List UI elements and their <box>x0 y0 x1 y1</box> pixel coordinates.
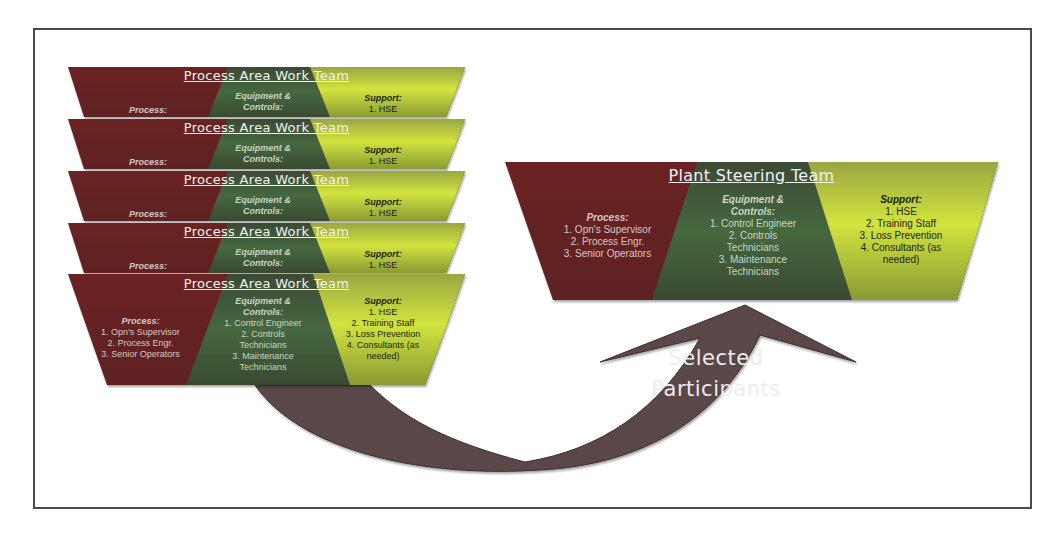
process-column: Process: <box>108 157 188 168</box>
equipment-column: Equipment & Controls: <box>218 247 308 269</box>
equipment-column: Equipment & Controls: 1. Control Enginee… <box>213 296 313 373</box>
support-column: Support:1. HSE <box>343 145 423 167</box>
card-title: Process Area Work Team <box>68 68 465 83</box>
card-title: Process Area Work Team <box>68 276 465 291</box>
card-title: Process Area Work Team <box>68 120 465 135</box>
arrow-label: Selected Participants <box>636 343 796 405</box>
process-column: Process: <box>108 105 188 116</box>
support-column: Support:1. HSE <box>343 249 423 271</box>
process-column: Process: <box>108 209 188 220</box>
equipment-column: Equipment & Controls: 1. Control Enginee… <box>697 194 809 278</box>
work-team-card-2-text: Process Area Work Team Process: Equipmen… <box>68 119 465 169</box>
card-title: Plant Steering Team <box>505 166 998 185</box>
work-team-card-1-text: Process Area Work Team Process: Equipmen… <box>68 67 465 117</box>
card-title: Process Area Work Team <box>68 224 465 239</box>
process-column: Process: <box>108 261 188 272</box>
work-team-card-3-text: Process Area Work Team Process: Equipmen… <box>68 171 465 221</box>
card-title: Process Area Work Team <box>68 172 465 187</box>
process-column: Process: 1. Opn's Supervisor 2. Process … <box>545 212 670 260</box>
equipment-column: Equipment & Controls: <box>218 195 308 217</box>
support-column: Support:1. HSE <box>343 93 423 115</box>
work-team-card-5-text: Process Area Work Team Process: 1. Opn's… <box>68 274 465 385</box>
equipment-column: Equipment & Controls: <box>218 91 308 113</box>
steering-team-card-text: Plant Steering Team Process: 1. Opn's Su… <box>505 162 998 300</box>
support-column: Support: 1. HSE 2. Training Staff 3. Los… <box>333 296 433 362</box>
support-column: Support:1. HSE <box>343 197 423 219</box>
equipment-column: Equipment & Controls: <box>218 143 308 165</box>
support-column: Support: 1. HSE 2. Training Staff 3. Los… <box>845 194 957 266</box>
work-team-card-4-text: Process Area Work Team Process: Equipmen… <box>68 223 465 273</box>
process-column: Process: 1. Opn's Supervisor 2. Process … <box>88 316 193 360</box>
